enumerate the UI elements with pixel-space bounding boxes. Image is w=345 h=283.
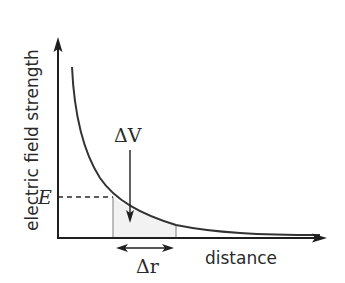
field-strength-curve <box>72 67 320 235</box>
potential-difference-label: ΔV <box>114 124 142 146</box>
x-axis-label: distance <box>205 248 277 268</box>
diagram-canvas: electric field strength distance E ΔV Δr <box>0 0 345 283</box>
shaded-area-under-curve <box>113 197 176 238</box>
distance-interval-label: Δr <box>136 255 160 277</box>
field-value-label: E <box>37 186 52 208</box>
field-distance-diagram: electric field strength distance E ΔV Δr <box>0 0 345 283</box>
